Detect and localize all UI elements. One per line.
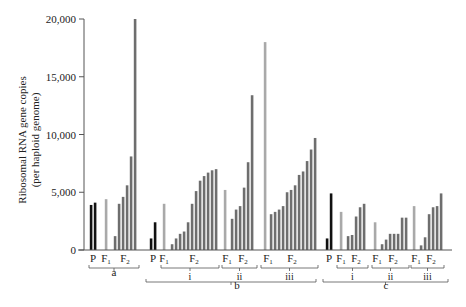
generation-label: P [90, 252, 96, 264]
bar-f2 [130, 156, 133, 250]
bar-chart: Ribosomal RNA gene copies (per haploid g… [0, 0, 466, 307]
group-label-b: b [234, 279, 240, 291]
bar-f2 [179, 234, 182, 250]
subgroup-label: ii [388, 271, 394, 282]
group-label-a: a [112, 266, 117, 278]
bar-f1 [224, 190, 227, 250]
bar-f2 [235, 210, 238, 250]
bar-f1 [340, 212, 343, 250]
bar-f2 [211, 170, 214, 250]
brackets: iiiiiiiiiiiiabc [89, 265, 448, 291]
bar-f2 [215, 169, 218, 250]
bar-f2 [401, 218, 404, 250]
generation-label: F1 [222, 252, 232, 266]
bar-f2 [195, 191, 198, 250]
bar-f2 [203, 176, 206, 250]
y-axis-label: Ribosomal RNA gene copies (per haploid g… [16, 76, 42, 203]
bar-p [90, 205, 93, 250]
bar-f2 [389, 234, 392, 250]
chart-container: Ribosomal RNA gene copies (per haploid g… [0, 0, 466, 307]
generation-label: F2 [189, 252, 199, 266]
bar-f1 [374, 222, 377, 250]
bar-p [326, 238, 329, 250]
y-axis: 05,00010,00015,00020,000 [46, 13, 84, 256]
bar-f2 [118, 204, 121, 250]
generation-label: F1 [411, 252, 421, 266]
bar-f2 [436, 206, 439, 250]
y-tick-label: 20,000 [46, 13, 77, 25]
bar-f2 [440, 193, 443, 250]
bar-f2 [428, 214, 431, 250]
y-tick-label: 5,000 [51, 186, 76, 198]
bar-f2 [314, 138, 317, 250]
bar-f2 [310, 150, 313, 250]
bar-f2 [278, 210, 281, 250]
generation-label: F2 [426, 252, 436, 266]
bar-f2 [114, 236, 117, 250]
generation-label: P [150, 252, 156, 264]
bars [90, 19, 443, 250]
generation-label: F2 [388, 252, 398, 266]
generation-label: F2 [238, 252, 248, 266]
bar-f2 [199, 181, 202, 250]
subgroup-label: iii [285, 271, 294, 282]
y-axis-label-line-1: Ribosomal RNA gene copies [16, 76, 28, 203]
generation-label: F1 [336, 252, 346, 266]
bar-f2 [286, 192, 289, 250]
bar-f2 [298, 175, 301, 250]
bar-f2 [187, 222, 190, 250]
generation-label: F1 [372, 252, 382, 266]
bar-f2 [405, 218, 408, 250]
bar-f2 [290, 190, 293, 250]
bar-f2 [122, 197, 125, 250]
y-tick-label: 10,000 [46, 129, 77, 141]
y-tick-label: 0 [71, 244, 77, 256]
bar-f2 [207, 173, 210, 250]
bar-p [150, 238, 153, 250]
bar-f2 [393, 234, 396, 250]
bar-f2 [134, 19, 137, 250]
bar-f2 [191, 204, 194, 250]
bar-f2 [302, 171, 305, 250]
bar-f2 [359, 207, 362, 250]
subgroup-label: i [351, 271, 354, 282]
bar-f2 [294, 185, 297, 250]
bar-f1 [264, 42, 267, 250]
bar-f2 [239, 206, 242, 250]
bar-f2 [351, 235, 354, 250]
bar-p [154, 222, 157, 250]
group-label-c: c [384, 279, 389, 291]
generation-labels: PF1F2PF1F2F1F2F1F2PF1F2F1F2F1F2 [90, 252, 436, 266]
bar-f2 [171, 244, 174, 250]
bar-p [94, 203, 97, 250]
bar-f2 [231, 219, 234, 250]
bar-f2 [274, 212, 277, 250]
bar-f2 [432, 207, 435, 250]
bar-f2 [347, 236, 350, 250]
bar-f2 [306, 161, 309, 250]
bar-f1 [163, 204, 166, 250]
generation-label: F1 [101, 252, 111, 266]
y-tick-label: 15,000 [46, 71, 77, 83]
bar-f1 [105, 199, 108, 250]
bar-f2 [251, 95, 254, 250]
subgroup-label: i [189, 271, 192, 282]
generation-label: F1 [263, 252, 273, 266]
bar-f2 [247, 162, 250, 250]
y-axis-label-line-2: (per haploid genome) [29, 92, 42, 187]
subgroup-label: iii [423, 271, 432, 282]
bar-f2 [126, 185, 129, 250]
generation-label: P [326, 252, 332, 264]
bar-f2 [424, 237, 427, 250]
bar-f2 [420, 245, 423, 250]
generation-label: F2 [120, 252, 130, 266]
bar-f2 [270, 214, 273, 250]
generation-label: F2 [287, 252, 297, 266]
generation-label: F1 [159, 252, 169, 266]
bar-f2 [175, 238, 178, 250]
bar-f2 [385, 240, 388, 250]
bar-f2 [282, 206, 285, 250]
bar-f1 [413, 206, 416, 250]
bar-f2 [243, 188, 246, 250]
bar-f2 [363, 204, 366, 250]
